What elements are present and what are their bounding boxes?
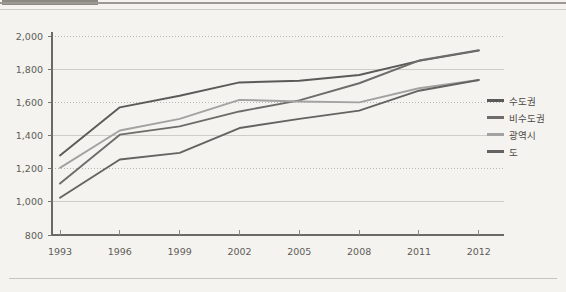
legend-swatch-icon	[487, 150, 504, 153]
axes	[52, 32, 504, 235]
series-line	[60, 80, 479, 198]
y-axis-labels: 8001,0001,2001,4001,6001,8002,000	[16, 31, 43, 241]
x-axis-tick-label: 2008	[347, 246, 371, 257]
x-axis-tick-label: 2002	[227, 246, 251, 257]
legend-item-label: 광역시	[509, 128, 536, 142]
x-axis-tick-label: 2005	[287, 246, 311, 257]
legend-item[interactable]: 비수도권	[487, 109, 563, 126]
x-axis-tick-label: 2012	[467, 246, 491, 257]
chart-legend: 수도권 비수도권 광역시 도	[487, 92, 563, 160]
x-axis-tick-label: 1993	[48, 246, 72, 257]
x-axis-tick-label: 1996	[108, 246, 132, 257]
line-chart: 8001,0001,2001,4001,6001,8002,000 199319…	[0, 0, 566, 292]
plot-area: 8001,0001,2001,4001,6001,8002,000 199319…	[0, 0, 566, 292]
legend-item[interactable]: 도	[487, 143, 563, 160]
y-axis-tick-label: 1,600	[16, 97, 43, 108]
legend-item-label: 도	[509, 145, 518, 159]
y-axis-tick-label: 1,000	[16, 196, 43, 207]
y-axis-tick-label: 1,800	[16, 64, 43, 75]
legend-swatch-icon	[487, 99, 504, 102]
series-line	[60, 50, 479, 183]
y-axis-tick-label: 1,200	[16, 163, 43, 174]
series-lines	[60, 50, 479, 198]
series-line	[60, 51, 479, 156]
legend-item-label: 비수도권	[509, 111, 545, 125]
legend-item[interactable]: 광역시	[487, 126, 563, 143]
legend-item[interactable]: 수도권	[487, 92, 563, 109]
legend-item-label: 수도권	[509, 94, 536, 108]
y-axis-tick-label: 800	[25, 230, 43, 241]
chart-figure: 8001,0001,2001,4001,6001,8002,000 199319…	[0, 0, 566, 292]
x-axis-tick-label: 2011	[407, 246, 431, 257]
y-axis-tick-label: 2,000	[16, 31, 43, 42]
legend-swatch-icon	[487, 133, 504, 136]
x-axis-tick-label: 1999	[168, 246, 192, 257]
y-axis-tick-label: 1,400	[16, 130, 43, 141]
x-axis-labels: 19931996199920022005200820112012	[48, 246, 491, 257]
legend-swatch-icon	[487, 116, 504, 119]
